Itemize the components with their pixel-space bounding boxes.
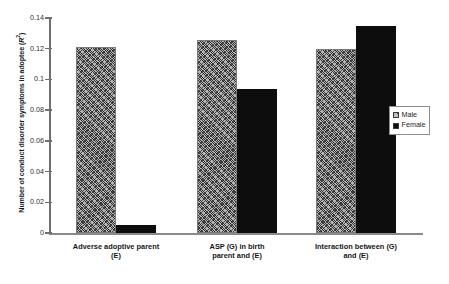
legend-item-male: Male [393,110,425,120]
y-axis-tick-label: 0.04 [0,168,44,175]
x-axis-label-line: Adverse adoptive parent [51,242,181,251]
legend: Male Female [389,106,430,135]
x-axis-label-line: parent and (E) [185,251,289,260]
y-axis-tick-label: 0.08 [0,106,44,113]
plot-area [50,18,423,233]
y-axis-tick-label: 0 [0,229,44,236]
bar-male-1 [76,47,116,233]
x-axis-label-line: (E) [51,251,181,260]
y-axis-title-superscript: 2 [15,35,21,38]
x-axis-label-2: ASP (G) in birthparent and (E) [185,242,289,261]
y-axis-tick-label: 0.1 [0,75,44,82]
y-axis-tick-label: 0.06 [0,137,44,144]
bar-chart: Number of conduct disorder symptoms in a… [0,0,449,284]
y-axis-title-close: ) [18,33,26,35]
legend-swatch-female-icon [393,123,399,129]
bar-male-3 [316,49,356,233]
legend-item-female: Female [393,120,425,130]
x-axis-label-line: and (E) [293,251,419,260]
legend-label-male: Male [402,110,418,120]
y-axis-title-text: Number of conduct disorder symptoms in a… [18,43,26,213]
bar-female-2 [237,89,277,233]
y-axis-tick-label: 0.02 [0,198,44,205]
bar-male-2 [197,40,237,233]
x-axis-label-1: Adverse adoptive parent(E) [51,242,181,261]
bar-female-1 [116,225,156,233]
x-axis-line [49,233,423,235]
x-axis-label-line: ASP (G) in birth [185,242,289,251]
y-axis-title-symbol: R [18,38,26,43]
x-axis-label-line: Interaction between (G) [293,242,419,251]
y-axis-tick-label: 0.12 [0,45,44,52]
legend-swatch-male-icon [393,112,399,118]
x-axis-label-3: Interaction between (G)and (E) [293,242,419,261]
legend-label-female: Female [402,120,426,130]
y-axis-tick-label: 0.14 [0,14,44,21]
